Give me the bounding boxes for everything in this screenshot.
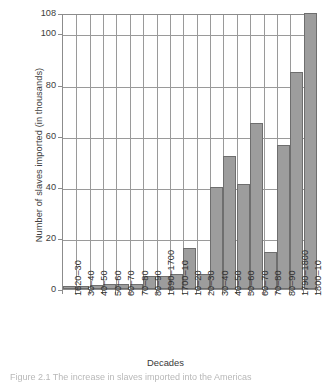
y-tick-label: 100 <box>0 29 56 38</box>
category-divider <box>143 15 144 289</box>
category-divider <box>264 15 265 289</box>
bar <box>223 156 236 289</box>
x-axis-title: Decades <box>0 357 331 368</box>
plot-area <box>62 14 316 290</box>
category-divider <box>76 15 77 289</box>
y-tick-label: 40 <box>0 183 56 192</box>
x-tick-label: 1700–10 <box>180 260 190 296</box>
y-tick-label: 0 <box>0 285 56 294</box>
y-tick-label: 80 <box>0 81 56 90</box>
bar <box>304 13 317 289</box>
x-tick-label: 30–40 <box>220 270 230 296</box>
y-axis-title: Number of slaves imported (in thousands) <box>34 20 44 290</box>
x-tick-label: 40–50 <box>233 270 243 296</box>
chart-figure: Number of slaves imported (in thousands)… <box>0 0 331 383</box>
x-tick-label: 80–90 <box>153 270 163 296</box>
x-tick-label: 1690–1700 <box>166 250 176 296</box>
x-tick-label: 20–30 <box>206 270 216 296</box>
category-divider <box>170 15 171 289</box>
y-tick-label: 108 <box>0 9 56 18</box>
x-tick-label: 1790–1800 <box>300 250 310 296</box>
plot-inner <box>63 15 315 289</box>
x-tick-label: 50–60 <box>246 270 256 296</box>
x-tick-label: 60–70 <box>126 270 136 296</box>
x-tick-label: 70–80 <box>140 270 150 296</box>
bar <box>250 123 263 289</box>
x-tick-label: 1620–30 <box>73 260 83 296</box>
category-divider <box>90 15 91 289</box>
category-divider <box>197 15 198 289</box>
x-tick-label: 10–20 <box>193 270 203 296</box>
category-divider <box>157 15 158 289</box>
x-tick-label: 80–90 <box>287 270 297 296</box>
x-tick-label: 60–70 <box>260 270 270 296</box>
category-divider <box>103 15 104 289</box>
y-tick-label: 20 <box>0 234 56 243</box>
figure-caption: Figure 2.1 The increase in slaves import… <box>10 372 251 382</box>
x-tick-mark <box>62 290 63 294</box>
x-tick-label: 30–40 <box>86 270 96 296</box>
category-divider <box>116 15 117 289</box>
x-tick-label: 40–50 <box>99 270 109 296</box>
x-tick-label: 1800–10 <box>313 260 323 296</box>
x-tick-label: 50–60 <box>113 270 123 296</box>
category-divider <box>130 15 131 289</box>
y-tick-label: 60 <box>0 132 56 141</box>
x-tick-label: 70–80 <box>273 270 283 296</box>
bar <box>277 145 290 289</box>
